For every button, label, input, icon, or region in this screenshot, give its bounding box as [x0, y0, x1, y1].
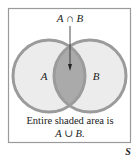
intersection-label: A ∩ B — [56, 12, 84, 24]
venn-diagram: A ∩ B A B Entire shaded area is A ∪ B. S — [0, 0, 139, 158]
set-b-label: B — [93, 70, 100, 82]
set-a-label: A — [40, 70, 48, 82]
caption-line-1: Entire shaded area is — [26, 115, 113, 126]
universe-label: S — [125, 146, 131, 157]
caption-line-2: A ∪ B. — [54, 128, 84, 139]
